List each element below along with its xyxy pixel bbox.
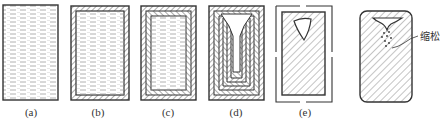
panel-b <box>71 6 129 100</box>
porosity-annotation: 缩松 <box>420 28 440 43</box>
panel-porosity <box>360 11 418 102</box>
label-b: (b) <box>92 106 105 118</box>
label-a: (a) <box>25 106 37 118</box>
panel-a <box>3 5 58 100</box>
label-c: (c) <box>162 106 174 118</box>
solidification-diagram <box>0 0 441 128</box>
label-d: (d) <box>230 106 243 118</box>
panel-c <box>141 6 196 100</box>
label-e: (e) <box>299 106 311 118</box>
panel-d <box>209 6 264 100</box>
panel-e <box>276 6 332 102</box>
